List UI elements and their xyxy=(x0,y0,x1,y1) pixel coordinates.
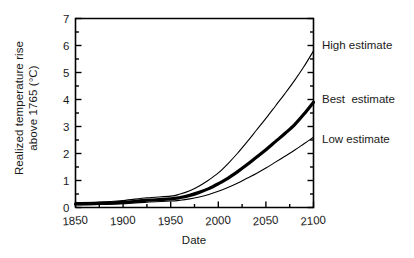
x-tick-label: 1950 xyxy=(157,214,183,228)
y-tick-label: 7 xyxy=(63,13,69,25)
series-label-high-estimate: High estimate xyxy=(322,39,392,51)
x-tick-label: 2000 xyxy=(205,214,231,228)
axis-frame xyxy=(76,19,314,208)
y-axis-tick-labels: 01234567 xyxy=(63,13,70,214)
x-axis-tick-labels: 185019001950200020502100 xyxy=(62,214,326,228)
series-label-best-estimate: Best estimate xyxy=(322,93,395,105)
y-tick-label: 1 xyxy=(63,175,69,187)
x-tick-label: 1850 xyxy=(62,214,88,228)
y-tick-label: 0 xyxy=(63,202,69,214)
y-tick-label: 6 xyxy=(63,40,69,52)
series-line-high-estimate xyxy=(76,51,314,203)
x-tick-label: 1900 xyxy=(110,214,136,228)
y-tick-label: 3 xyxy=(63,121,69,133)
y-tick-label: 2 xyxy=(63,148,69,160)
y-tick-label: 4 xyxy=(63,94,70,106)
data-series-group xyxy=(76,51,314,205)
x-tick-label: 2050 xyxy=(252,214,278,228)
series-label-low-estimate: Low estimate xyxy=(322,133,390,145)
y-tick-label: 5 xyxy=(63,67,69,79)
chart-figure: Realized temperature rise above 1765 (°C… xyxy=(0,0,414,258)
x-axis-title: Date xyxy=(75,234,313,246)
x-tick-label: 2100 xyxy=(300,214,326,228)
y-axis-ticks xyxy=(76,19,314,208)
